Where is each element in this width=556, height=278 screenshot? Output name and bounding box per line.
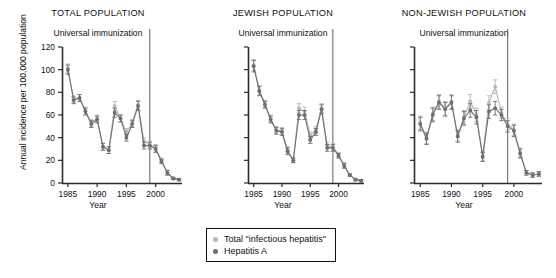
panel-non-jewish-population: NON-JEWISH POPULATION Universal immuniza… <box>372 0 556 218</box>
x-axis-tick-label: 1985 <box>59 189 78 199</box>
data-point-marker <box>84 110 88 114</box>
data-point-marker <box>107 148 111 152</box>
data-point-marker <box>280 130 284 134</box>
panel-title: JEWISH POPULATION <box>190 8 376 18</box>
data-point-marker <box>124 136 128 140</box>
legend-label: Total "infectious hepatitis" <box>224 234 326 244</box>
data-point-marker <box>487 110 491 114</box>
data-point-marker <box>119 117 123 121</box>
data-point-marker <box>89 122 93 126</box>
data-point-marker <box>177 178 181 182</box>
data-point-marker <box>425 137 429 141</box>
data-point-marker <box>487 101 491 105</box>
data-point-marker <box>475 115 479 119</box>
plot-area: 1985199019952000 <box>414 47 542 183</box>
plot-svg: 1985199019952000 <box>214 47 370 217</box>
data-point-marker <box>481 155 485 159</box>
data-point-marker <box>263 103 267 107</box>
data-point-marker <box>130 122 134 126</box>
y-axis-tick-label: 60 <box>46 110 56 120</box>
legend-item: Hepatitis A <box>213 245 326 257</box>
x-axis-tick-label: 1990 <box>88 189 107 199</box>
data-point-marker <box>443 107 447 111</box>
y-axis-tick-label: 80 <box>46 87 56 97</box>
data-point-marker <box>286 149 290 153</box>
legend-label: Hepatitis A <box>224 246 267 256</box>
legend: Total "infectious hepatitis" Hepatitis A <box>206 228 336 262</box>
x-axis-tick-label: 1995 <box>473 189 492 199</box>
data-point-marker <box>78 96 82 100</box>
data-point-marker <box>418 122 422 126</box>
plot-svg: 1985199019952000 <box>380 47 548 217</box>
data-point-marker <box>171 177 175 181</box>
immunization-annotation-label: Universal immunization <box>0 28 196 38</box>
x-axis-tick-label: 2000 <box>329 189 348 199</box>
data-point-marker <box>113 111 117 115</box>
y-axis-tick-label: 40 <box>46 133 56 143</box>
data-point-marker <box>493 106 497 110</box>
data-point-marker <box>297 113 301 117</box>
data-point-marker <box>437 101 441 105</box>
data-point-marker <box>160 160 164 164</box>
panel-title: NON-JEWISH POPULATION <box>372 8 556 18</box>
data-point-marker <box>531 173 535 177</box>
plot-area: 1985199019952000 <box>248 47 364 183</box>
plot-svg: 0204060801001201985199019952000 <box>28 47 188 217</box>
immunization-annotation-label: Universal immunization <box>372 28 556 38</box>
data-point-marker <box>303 113 307 117</box>
x-axis-title: Year <box>0 200 196 210</box>
data-point-marker <box>66 68 70 72</box>
data-point-marker <box>252 64 256 68</box>
x-axis-tick-label: 1985 <box>244 189 263 199</box>
data-point-marker <box>431 113 435 117</box>
data-point-marker <box>518 152 522 156</box>
x-axis-tick-label: 1990 <box>442 189 461 199</box>
immunization-annotation-label: Universal immunization <box>190 28 376 38</box>
data-point-marker <box>291 158 295 162</box>
y-axis-tick-label: 0 <box>50 178 55 188</box>
x-axis-tick-label: 2000 <box>505 189 524 199</box>
data-point-marker <box>142 144 146 148</box>
data-point-marker <box>506 124 510 128</box>
panel-jewish-population: JEWISH POPULATION Universal immunization… <box>190 0 376 218</box>
data-point-marker <box>257 89 261 93</box>
data-point-marker <box>101 145 105 149</box>
data-point-marker <box>325 146 329 150</box>
data-point-marker <box>154 147 158 151</box>
x-axis-tick-label: 1990 <box>273 189 292 199</box>
data-point-marker <box>274 129 278 133</box>
data-point-marker <box>337 154 341 158</box>
data-point-marker <box>136 104 140 108</box>
data-point-marker <box>342 164 346 168</box>
data-point-marker <box>524 171 528 175</box>
panel-title: TOTAL POPULATION <box>0 8 196 18</box>
data-point-marker <box>72 98 76 102</box>
legend-marker-hepatitis-a <box>213 249 218 254</box>
x-axis-tick-label: 2000 <box>146 189 165 199</box>
data-point-marker <box>320 107 324 111</box>
data-point-marker <box>308 138 312 142</box>
data-point-marker <box>493 85 497 89</box>
data-point-marker <box>500 113 504 117</box>
series-line <box>420 103 539 176</box>
data-point-marker <box>456 135 460 139</box>
data-point-marker <box>331 146 335 150</box>
data-point-marker <box>95 118 99 122</box>
data-point-marker <box>462 117 466 121</box>
x-axis-tick-label: 1995 <box>301 189 320 199</box>
data-point-marker <box>165 171 169 175</box>
data-point-marker <box>269 118 273 122</box>
y-axis-tick-label: 100 <box>41 65 55 75</box>
data-point-marker <box>354 178 358 182</box>
y-axis-tick-label: 120 <box>41 42 55 52</box>
data-point-marker <box>314 130 318 134</box>
data-point-marker <box>450 101 454 105</box>
data-point-marker <box>297 106 301 110</box>
data-point-marker <box>537 172 541 176</box>
data-point-marker <box>468 109 472 113</box>
data-point-marker <box>359 179 363 183</box>
data-point-marker <box>148 144 152 148</box>
data-point-marker <box>348 173 352 177</box>
data-point-marker <box>468 100 472 104</box>
plot-area: 0204060801001201985199019952000 <box>62 47 182 183</box>
